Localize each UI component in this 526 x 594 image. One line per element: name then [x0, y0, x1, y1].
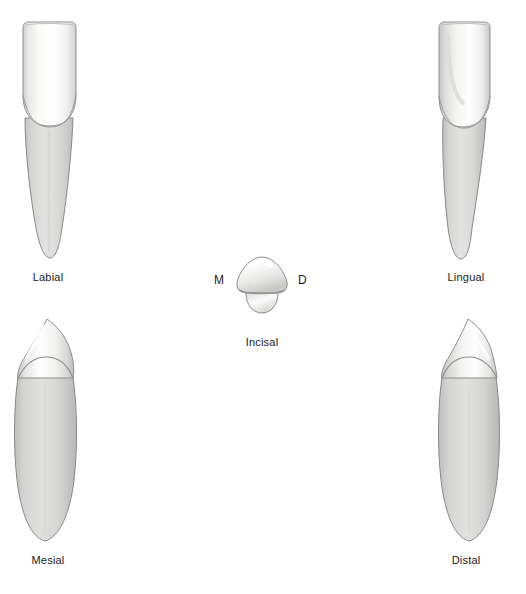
distal-crown [442, 319, 497, 378]
view-incisal [222, 250, 302, 330]
labial-crown [23, 22, 76, 126]
view-distal [396, 305, 526, 565]
incisal-lingual-surface [246, 293, 278, 313]
caption-mesial: Mesial [32, 554, 65, 566]
view-lingual [406, 0, 526, 270]
mesial-crown [18, 319, 74, 378]
view-labial [0, 0, 120, 270]
view-mesial [0, 305, 130, 565]
incisal-distal-marker: D [298, 273, 307, 287]
caption-labial: Labial [33, 271, 64, 283]
incisal-mesial-marker: M [214, 273, 224, 287]
caption-distal: Distal [452, 554, 481, 566]
caption-lingual: Lingual [448, 271, 485, 283]
lingual-root [443, 118, 486, 259]
tooth-anatomy-figure: Labial [0, 0, 526, 594]
caption-incisal: Incisal [246, 336, 279, 348]
